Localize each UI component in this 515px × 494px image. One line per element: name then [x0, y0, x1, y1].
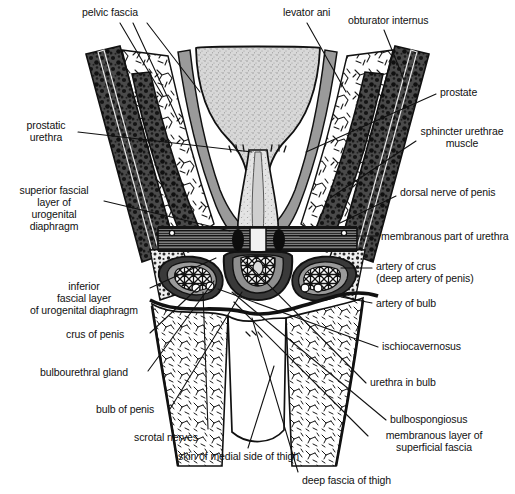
bulbourethral-gland-right [273, 229, 285, 251]
label-levator-ani: levator ani [283, 6, 330, 18]
label-membranous-layer-superficial-fascia: membranous layer of superficial fascia [368, 429, 500, 453]
label-membranous-part-of-urethra: membranous part of urethra [381, 230, 509, 242]
label-bulbospongiosus: bulbospongiosus [390, 413, 467, 425]
bulbourethral-gland-left [232, 229, 244, 251]
label-obturator-internus: obturator internus [348, 14, 429, 26]
label-prostatic-urethra: prostatic urethra [8, 119, 84, 143]
label-artery-of-crus: artery of crus (deep artery of penis) [376, 260, 474, 284]
artery-of-bulb-right [301, 284, 309, 292]
label-urethra-in-bulb: urethra in bulb [370, 376, 436, 388]
label-crus-of-penis: crus of penis [66, 328, 124, 340]
label-sphincter-urethrae-muscle: sphincter urethrae muscle [412, 125, 512, 149]
label-dorsal-nerve-of-penis: dorsal nerve of penis [400, 186, 495, 198]
label-scrotal-nerves: scrotal nerves [134, 431, 198, 443]
label-artery-of-bulb: artery of bulb [376, 297, 436, 309]
label-deep-fascia-of-thigh: deep fascia of thigh [302, 474, 391, 486]
membranous-urethra-lumen [250, 228, 266, 252]
label-ischiocavernosus: ischiocavernosus [382, 340, 461, 352]
label-skin-of-medial-side-of-thigh: skin of medial side of thigh [178, 450, 299, 462]
urogenital-diaphragm [158, 226, 357, 252]
anatomical-figure: pelvic fascia levator ani obturator inte… [0, 0, 515, 494]
label-pelvic-fascia: pelvic fascia [82, 6, 138, 18]
artery-of-crus-right [314, 284, 322, 292]
label-superior-fascial-layer: superior fascial layer of urogenital dia… [4, 184, 104, 232]
label-bulbourethral-gland: bulbourethral gland [40, 366, 128, 378]
urethra-in-bulb-lumen [253, 261, 263, 275]
label-bulb-of-penis: bulb of penis [96, 403, 154, 415]
artery-of-crus-left [192, 284, 200, 292]
label-inferior-fascial-layer: inferior fascial layer of urogenital dia… [8, 280, 160, 316]
label-prostate: prostate [440, 86, 477, 98]
